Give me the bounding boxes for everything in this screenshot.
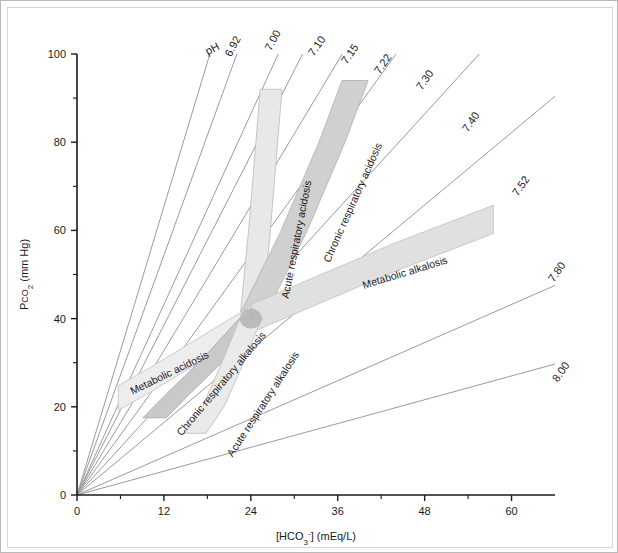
ph-label-7-30: 7.30 xyxy=(414,67,436,91)
ph-label-7-52: 7.52 xyxy=(510,173,532,197)
y-tick-label-60: 60 xyxy=(54,224,66,236)
band-labels: Acute respiratory acidosisChronic respir… xyxy=(128,141,449,459)
ph-isopleth-lines xyxy=(77,54,555,495)
x-tick-label-12: 12 xyxy=(158,505,170,517)
y-tick-label-40: 40 xyxy=(54,313,66,325)
x-axis-title: [HCO3-] (mEq/L) xyxy=(276,529,356,547)
ph-label-7-40: 7.40 xyxy=(460,109,482,133)
ph-isopleth-7-22 xyxy=(77,54,342,495)
y-tick-label-0: 0 xyxy=(60,489,66,501)
y-tick-label-100: 100 xyxy=(48,48,66,60)
ph-prefix-label: pH xyxy=(203,40,221,57)
acid-base-nomogram-chart: Acute respiratory acidosisChronic respir… xyxy=(8,8,612,547)
normal-value-marker xyxy=(240,309,262,329)
ph-label-6-92: 6.92 xyxy=(222,34,243,59)
ph-label-7-15: 7.15 xyxy=(339,41,361,65)
y-tick-label-20: 20 xyxy=(54,401,66,413)
ph-label-7-10: 7.10 xyxy=(306,33,328,57)
ph-label-7-80: 7.80 xyxy=(546,259,568,283)
x-tick-label-36: 36 xyxy=(332,505,344,517)
ph-label-8-00: 8.00 xyxy=(550,359,572,383)
x-tick-label-48: 48 xyxy=(419,505,431,517)
x-tick-label-0: 0 xyxy=(74,505,80,517)
figure-plate: Acute respiratory acidosisChronic respir… xyxy=(7,7,613,548)
x-tick-label-60: 60 xyxy=(505,505,517,517)
x-tick-label-24: 24 xyxy=(245,505,257,517)
ph-label-7-22: 7.22 xyxy=(372,51,394,75)
ph-label-7-00: 7.00 xyxy=(262,28,283,53)
y-axis-title: PCO2 (mm Hg) xyxy=(18,239,35,310)
normal-point xyxy=(240,309,262,329)
figure-page: Acute respiratory acidosisChronic respir… xyxy=(0,0,618,553)
y-tick-label-80: 80 xyxy=(54,136,66,148)
